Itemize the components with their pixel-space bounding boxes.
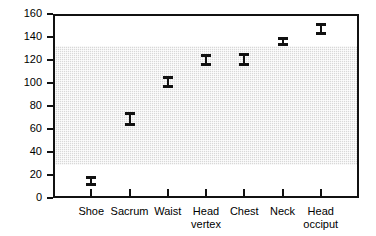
y-axis-tick-label: 40 — [0, 146, 42, 157]
error-bar-cap-upper — [125, 112, 135, 115]
y-axis-tick-mark — [47, 151, 53, 153]
y-axis-tick-label: 120 — [0, 54, 42, 65]
error-bar-cap-lower — [163, 85, 173, 88]
y-axis-tick-mark — [47, 82, 53, 84]
y-axis-tick-mark — [47, 105, 53, 107]
error-bar-cap-upper — [278, 37, 288, 40]
y-axis-tick-label: 160 — [0, 8, 42, 19]
x-axis-tick-mark — [282, 189, 284, 196]
y-axis-tick-label: 140 — [0, 31, 42, 42]
y-axis-tick-label: 60 — [0, 123, 42, 134]
error-bar-marker — [239, 53, 249, 66]
error-bar-cap-upper — [163, 76, 173, 79]
error-bar-marker — [163, 76, 173, 88]
error-bar-cap-upper — [316, 23, 326, 26]
error-bar-cap-upper — [201, 54, 211, 57]
plot-area — [53, 14, 359, 198]
error-bar-cap-lower — [201, 63, 211, 66]
y-axis-tick-mark — [47, 197, 53, 199]
y-axis-tick-mark — [47, 59, 53, 61]
error-bar-marker — [125, 112, 135, 126]
error-bar-cap-upper — [239, 53, 249, 56]
y-axis-tick-mark — [47, 13, 53, 15]
error-bar-cap-lower — [86, 183, 96, 186]
y-axis-tick-mark — [47, 128, 53, 130]
error-bar-marker — [86, 176, 96, 186]
y-axis-tick-label: 0 — [0, 192, 42, 203]
error-bar-cap-lower — [278, 43, 288, 46]
x-axis-tick-mark — [243, 189, 245, 196]
y-axis-tick-label: 80 — [0, 100, 42, 111]
x-axis-tick-mark — [90, 189, 92, 196]
y-axis-tick-mark — [47, 36, 53, 38]
y-axis-tick-mark — [47, 174, 53, 176]
error-bar-marker — [278, 37, 288, 46]
error-bar-marker — [316, 23, 326, 35]
x-axis-tick-label: Head occiput — [290, 205, 352, 231]
error-bar-cap-upper — [86, 176, 96, 179]
error-bar-cap-lower — [316, 32, 326, 35]
error-bar-cap-lower — [125, 123, 135, 126]
x-axis-tick-mark — [205, 189, 207, 196]
x-axis-tick-mark — [129, 189, 131, 196]
chart-figure: 020406080100120140160 ShoeSacrumWaistHea… — [0, 0, 376, 236]
y-axis-tick-label: 100 — [0, 77, 42, 88]
x-axis-tick-mark — [167, 189, 169, 196]
x-axis-tick-mark — [320, 189, 322, 196]
error-bar-marker — [201, 54, 211, 66]
error-bar-cap-lower — [239, 63, 249, 66]
y-axis-tick-label: 20 — [0, 169, 42, 180]
